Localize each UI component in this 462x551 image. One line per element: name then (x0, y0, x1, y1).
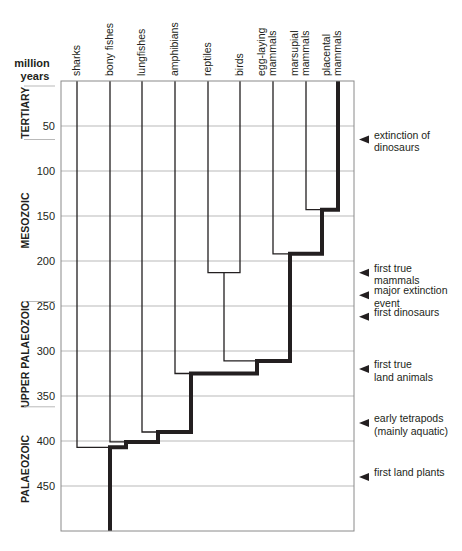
event-annotation: first trueland animals (359, 358, 433, 383)
era-label: TERTIARY (19, 87, 31, 139)
arrow-marker-icon (359, 136, 369, 144)
event-label: first true (374, 358, 412, 370)
event-label: first land plants (374, 466, 445, 478)
event-label: early tetrapods (374, 412, 443, 424)
event-label: (mainly aquatic) (374, 425, 448, 437)
branch-amphibians (175, 81, 191, 374)
tick-label: 150 (37, 210, 55, 222)
event-label: first true (374, 262, 412, 274)
branch-marsupial (306, 81, 322, 210)
tick-label: 100 (37, 165, 55, 177)
taxon-label: mammals (299, 30, 311, 76)
event-annotation: first land plants (359, 466, 445, 481)
era-label: PALAEOZOIC (19, 434, 31, 502)
arrow-marker-icon (359, 473, 369, 481)
taxon-label: mammals (331, 30, 343, 76)
era-label: MESOZOIC (19, 192, 31, 248)
taxon-label: birds (233, 53, 245, 76)
taxon-label: lungfishes (135, 29, 147, 76)
event-annotation: early tetrapods(mainly aquatic) (359, 412, 448, 437)
arrow-marker-icon (359, 419, 369, 427)
arrow-marker-icon (359, 365, 369, 373)
taxon-label: amphibians (168, 22, 180, 76)
branch-lungfishes (142, 81, 158, 432)
event-annotation: extinction ofdinosaurs (359, 129, 430, 154)
taxon-label: mammals (266, 30, 278, 76)
event-annotation: first dinosaurs (359, 306, 439, 321)
tick-label: 300 (37, 345, 55, 357)
tick-label: 250 (37, 300, 55, 312)
event-label: major extinction (374, 284, 448, 296)
arrow-marker-icon (359, 291, 369, 299)
taxon-label: bony fishes (103, 23, 115, 76)
arrow-marker-icon (359, 269, 369, 277)
axis-title: million years (14, 57, 50, 82)
tick-label: 450 (37, 480, 55, 492)
event-label: land animals (374, 371, 433, 383)
tick-label: 50 (43, 120, 55, 132)
branch-reptile-bird-stem (224, 273, 257, 361)
branch-sharks (77, 81, 110, 447)
arrow-marker-icon (359, 313, 369, 321)
tick-label: 350 (37, 390, 55, 402)
tick-label: 200 (37, 255, 55, 267)
taxon-label: reptiles (201, 42, 213, 76)
branch-reptiles-birds (208, 81, 240, 273)
axis-title-line1: million (14, 57, 50, 69)
event-label: first dinosaurs (374, 306, 439, 318)
event-annotation: first truemammals (359, 262, 420, 287)
cladogram-diagram: TERTIARYMESOZOICUPPER PALAEOZOICPALAEOZO… (0, 0, 462, 551)
branch-egg-laying (273, 81, 290, 254)
taxon-labels: sharksbony fisheslungfishesamphibiansrep… (70, 22, 343, 76)
taxon-label: sharks (70, 45, 82, 76)
event-label: dinosaurs (374, 141, 420, 153)
tick-label: 400 (37, 435, 55, 447)
event-annotations: extinction ofdinosaursfirst truemammalsm… (359, 129, 448, 482)
event-label: extinction of (374, 129, 430, 141)
era-label: UPPER PALAEOZOIC (19, 300, 31, 408)
axis-ticks: 50100150200250300350400450 (37, 120, 55, 492)
axis-title-line2: years (21, 70, 50, 82)
